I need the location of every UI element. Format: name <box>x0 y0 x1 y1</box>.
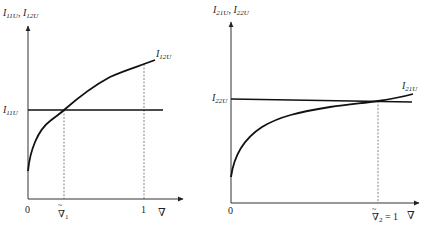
right-x-axis-symbol: ∇ <box>407 209 415 221</box>
right-i22u-label: I22U <box>211 92 228 105</box>
left-one-label: 1 <box>141 204 146 215</box>
left-panel: I11U, I12U I12U I11U 0 ~ ∇1 1 ∇ <box>2 7 183 221</box>
left-y-axis-label: I11U, I12U <box>2 7 39 20</box>
left-i12u-curve <box>28 60 155 171</box>
left-i12u-label: I12U <box>155 48 172 61</box>
right-intersection-label: ∇2 = 1 <box>372 211 398 224</box>
right-y-axis-label: I21U, I22U <box>212 4 250 17</box>
left-i11u-label: I11U <box>2 104 19 117</box>
right-i21u-curve <box>231 94 413 177</box>
right-i21u-label: I21U <box>401 80 418 93</box>
left-intersection-label: ∇1 <box>58 208 69 221</box>
left-origin-label: 0 <box>25 204 30 215</box>
left-x-axis-symbol: ∇ <box>158 206 166 218</box>
diagram-canvas: I11U, I12U I12U I11U 0 ~ ∇1 1 ∇ I21U, <box>0 0 421 226</box>
right-origin-label: 0 <box>228 205 233 216</box>
right-panel: I21U, I22U I21U I22U 0 ~ ∇2 = 1 ∇ <box>211 4 419 224</box>
